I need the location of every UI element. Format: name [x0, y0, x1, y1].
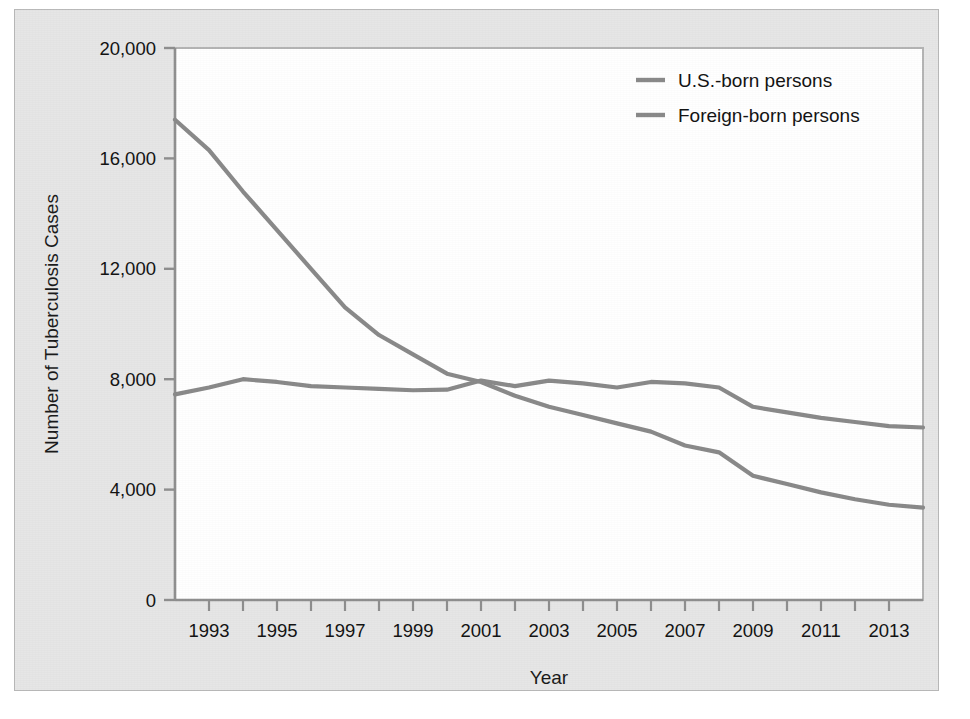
y-tick-label: 20,000 — [99, 38, 156, 59]
y-tick-group: 04,0008,00012,00016,00020,000 — [99, 38, 175, 611]
y-tick-label: 8,000 — [110, 369, 156, 390]
x-tick-label: 1999 — [392, 620, 433, 641]
y-tick-label: 12,000 — [99, 258, 156, 279]
x-tick-label: 1997 — [324, 620, 365, 641]
y-tick-label: 4,000 — [110, 479, 156, 500]
plot-wrapper: 04,0008,00012,00016,00020,000 1993199519… — [0, 0, 970, 719]
line-chart: 04,0008,00012,00016,00020,000 1993199519… — [0, 0, 970, 719]
x-tick-label: 2001 — [460, 620, 501, 641]
x-tick-label: 2005 — [596, 620, 637, 641]
plot-background-group — [175, 48, 923, 600]
plot-area-background — [175, 48, 923, 600]
x-tick-label: 2007 — [664, 620, 705, 641]
x-tick-label: 2013 — [868, 620, 909, 641]
y-tick-label: 0 — [146, 590, 156, 611]
legend-label: Foreign-born persons — [678, 105, 860, 126]
y-tick-label: 16,000 — [99, 148, 156, 169]
x-tick-label: 2009 — [732, 620, 773, 641]
x-axis-title: Year — [530, 667, 569, 688]
legend-label: U.S.-born persons — [678, 70, 832, 91]
x-tick-label: 1995 — [256, 620, 297, 641]
x-tick-label: 2003 — [528, 620, 569, 641]
y-axis-title: Number of Tuberculosis Cases — [41, 194, 62, 454]
x-tick-label: 2011 — [801, 620, 841, 641]
x-tick-label: 1993 — [188, 620, 229, 641]
x-tick-group: 1993199519971999200120032005200720092011… — [188, 600, 909, 641]
figure-container: 04,0008,00012,00016,00020,000 1993199519… — [0, 0, 970, 719]
